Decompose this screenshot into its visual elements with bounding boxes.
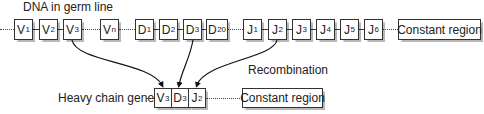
heavy-dotted-lead: [146, 98, 154, 99]
heavy-constant-region: Constant region: [242, 88, 323, 108]
arrow-v3: [72, 40, 162, 85]
recombination-label: Recombination: [248, 63, 328, 77]
heavy-chain-label: Heavy chain gene: [58, 91, 154, 105]
heavy-dotted-gap: [206, 98, 242, 99]
heavy-seg-d: D3: [171, 88, 189, 108]
arrow-d3: [179, 40, 193, 85]
heavy-seg-v: V3: [154, 88, 172, 108]
heavy-seg-j: J2: [188, 88, 206, 108]
